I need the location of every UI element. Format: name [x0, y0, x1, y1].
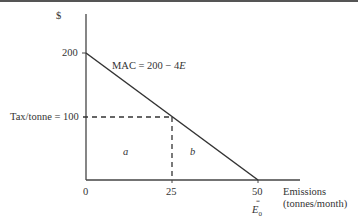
mac-curve-label: MAC = 200 − 4E	[112, 60, 186, 72]
x-tick-label-25: 25	[166, 186, 177, 198]
x-axis-label-line1: Emissions	[283, 186, 326, 198]
x-axis-label-line2: (tonnes/month)	[283, 198, 347, 210]
e0-label: E0	[252, 204, 262, 220]
area-b-label: b	[190, 146, 195, 158]
y-axis-label: $	[56, 10, 61, 22]
tax-label: Tax/tonne = 100	[10, 111, 79, 123]
area-a-label: a	[123, 146, 128, 158]
y-tick-label-200: 200	[62, 47, 78, 59]
x-tick-label-0: 0	[83, 186, 88, 198]
